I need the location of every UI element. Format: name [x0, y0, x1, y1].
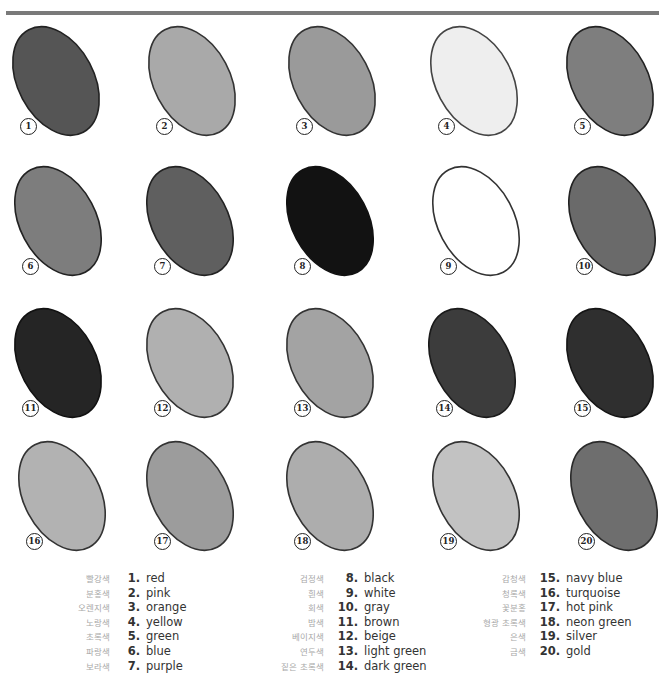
legend-number: 2. [120, 586, 140, 600]
korean-color-name: 초록색 [66, 630, 120, 642]
legend-item: 초록색5.green [66, 629, 186, 644]
english-color-name: yellow [140, 615, 183, 629]
korean-color-name: 청록색 [468, 587, 536, 599]
legend-column: 감청색15.navy blue청록색16.turquoise꽃분홍17.hot … [468, 571, 632, 659]
color-swatch: 12 [146, 310, 246, 430]
legend-number: 20. [536, 644, 560, 658]
legend-number: 12. [334, 629, 358, 643]
swatch-number-badge: 18 [294, 533, 311, 550]
swatch-number-badge: 8 [294, 258, 311, 275]
legend-number: 15. [536, 571, 560, 585]
legend-number: 3. [120, 600, 140, 614]
korean-color-name: 베이지색 [268, 630, 334, 642]
english-color-name: pink [140, 586, 170, 600]
legend-item: 금색20.gold [468, 644, 632, 659]
legend-number: 10. [334, 600, 358, 614]
swatch-number-badge: 4 [438, 118, 455, 135]
swatch-number-badge: 2 [156, 118, 173, 135]
legend-item: 검정색8.black [268, 571, 427, 586]
english-color-name: turquoise [560, 586, 620, 600]
swatch-number-badge: 7 [154, 258, 171, 275]
english-color-name: blue [140, 644, 171, 658]
english-color-name: red [140, 571, 165, 585]
color-swatch: 8 [286, 168, 386, 288]
legend-item: 밤색11.brown [268, 615, 427, 630]
color-swatch: 10 [568, 168, 659, 288]
legend-item: 회색10.gray [268, 600, 427, 615]
swatch-number-badge: 12 [154, 400, 171, 417]
legend-column: 빨강색1.red분홍색2.pink오렌지색3.orange노랑색4.yellow… [66, 571, 186, 673]
korean-color-name: 파랑색 [66, 645, 120, 657]
swatch-number-badge: 16 [26, 533, 43, 550]
color-swatch: 15 [566, 310, 659, 430]
top-divider-rule [6, 11, 659, 15]
english-color-name: silver [560, 629, 597, 643]
korean-color-name: 밤색 [268, 616, 334, 628]
legend-item: 꽃분홍17.hot pink [468, 600, 632, 615]
color-swatch: 16 [18, 443, 118, 563]
color-swatch: 4 [430, 28, 530, 148]
english-color-name: white [358, 586, 395, 600]
english-color-name: light green [358, 644, 426, 658]
color-swatch: 2 [148, 28, 248, 148]
english-color-name: neon green [560, 615, 632, 629]
legend-item: 청록색16.turquoise [468, 586, 632, 601]
legend-item: 노랑색4.yellow [66, 615, 186, 630]
color-swatch: 11 [14, 310, 114, 430]
legend-number: 11. [334, 615, 358, 629]
legend-number: 1. [120, 571, 140, 585]
legend-number: 4. [120, 615, 140, 629]
korean-color-name: 감청색 [468, 572, 536, 584]
legend-number: 17. [536, 600, 560, 614]
legend-number: 9. [334, 586, 358, 600]
legend-item: 형광 초록색18.neon green [468, 615, 632, 630]
english-color-name: green [140, 629, 179, 643]
legend-item: 오렌지색3.orange [66, 600, 186, 615]
legend-item: 베이지색12.beige [268, 629, 427, 644]
legend-item: 빨강색1.red [66, 571, 186, 586]
legend-number: 19. [536, 629, 560, 643]
legend-column: 검정색8.black흰색9.white회색10.gray밤색11.brown베이… [268, 571, 427, 673]
korean-color-name: 오렌지색 [66, 601, 120, 613]
english-color-name: orange [140, 600, 186, 614]
swatch-number-badge: 5 [574, 118, 591, 135]
legend-number: 16. [536, 586, 560, 600]
swatch-number-badge: 19 [440, 533, 457, 550]
korean-color-name: 금색 [468, 645, 536, 657]
legend-item: 은색19.silver [468, 629, 632, 644]
english-color-name: black [358, 571, 395, 585]
color-swatch: 19 [432, 443, 532, 563]
korean-color-name: 흰색 [268, 587, 334, 599]
english-color-name: brown [358, 615, 400, 629]
swatch-number-badge: 15 [574, 400, 591, 417]
korean-color-name: 검정색 [268, 572, 334, 584]
color-swatch: 14 [428, 310, 528, 430]
legend-number: 5. [120, 629, 140, 643]
korean-color-name: 형광 초록색 [468, 616, 536, 628]
legend-item: 짙은 초록색14.dark green [268, 659, 427, 674]
legend-item: 흰색9.white [268, 586, 427, 601]
swatch-number-badge: 3 [296, 118, 313, 135]
swatch-number-badge: 1 [20, 118, 37, 135]
swatch-number-badge: 17 [154, 533, 171, 550]
english-color-name: navy blue [560, 571, 622, 585]
color-swatch: 9 [432, 168, 532, 288]
legend-number: 8. [334, 571, 358, 585]
korean-color-name: 노랑색 [66, 616, 120, 628]
swatch-number-badge: 11 [22, 400, 39, 417]
english-color-name: hot pink [560, 600, 613, 614]
korean-color-name: 빨강색 [66, 572, 120, 584]
color-swatch: 17 [146, 443, 246, 563]
korean-color-name: 연두색 [268, 645, 334, 657]
color-swatch: 1 [12, 28, 112, 148]
swatch-number-badge: 14 [436, 400, 453, 417]
swatch-number-badge: 20 [578, 533, 595, 550]
english-color-name: beige [358, 629, 396, 643]
legend-item: 연두색13.light green [268, 644, 427, 659]
legend-item: 파랑색6.blue [66, 644, 186, 659]
color-swatch: 7 [146, 168, 246, 288]
legend-number: 7. [120, 659, 140, 673]
color-swatch: 20 [570, 443, 659, 563]
legend-number: 18. [536, 615, 560, 629]
korean-color-name: 보라색 [66, 660, 120, 672]
